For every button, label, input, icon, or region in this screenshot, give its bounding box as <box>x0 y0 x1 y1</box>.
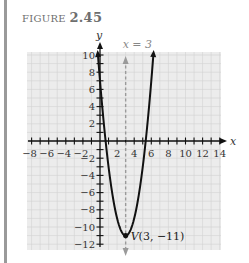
y-axis-arrow-icon <box>97 42 103 49</box>
vertex-point <box>123 233 128 238</box>
svg-text:12: 12 <box>196 148 209 159</box>
svg-text:10: 10 <box>82 50 95 61</box>
svg-text:−8: −8 <box>22 148 37 159</box>
svg-text:4: 4 <box>131 148 137 159</box>
svg-text:2: 2 <box>114 148 120 159</box>
svg-text:−2: −2 <box>80 153 95 164</box>
svg-text:−10: −10 <box>74 222 95 233</box>
svg-text:6: 6 <box>148 148 154 159</box>
svg-text:14: 14 <box>213 148 226 159</box>
svg-text:8: 8 <box>89 67 95 78</box>
parabola-graph: xy −8−6−4−22468101214108642−2−4−6−8−10−1… <box>0 0 249 263</box>
svg-text:−8: −8 <box>80 204 95 215</box>
svg-text:2: 2 <box>89 118 95 129</box>
x-axis-arrow-icon <box>220 138 227 144</box>
svg-text:V(3, −11): V(3, −11) <box>131 230 185 243</box>
svg-text:−6: −6 <box>80 187 95 198</box>
annotations: V(3, −11) <box>123 230 184 243</box>
symmetry-arrow-down-icon <box>123 248 129 256</box>
svg-text:−4: −4 <box>80 170 95 181</box>
svg-text:x = 3: x = 3 <box>123 38 152 51</box>
svg-text:−4: −4 <box>56 148 71 159</box>
svg-text:x: x <box>230 135 237 148</box>
svg-text:10: 10 <box>179 148 192 159</box>
svg-text:6: 6 <box>89 84 95 95</box>
svg-text:4: 4 <box>89 101 95 112</box>
svg-text:−6: −6 <box>39 148 54 159</box>
svg-text:y: y <box>95 29 103 42</box>
svg-text:8: 8 <box>165 148 171 159</box>
svg-text:−12: −12 <box>74 239 95 250</box>
